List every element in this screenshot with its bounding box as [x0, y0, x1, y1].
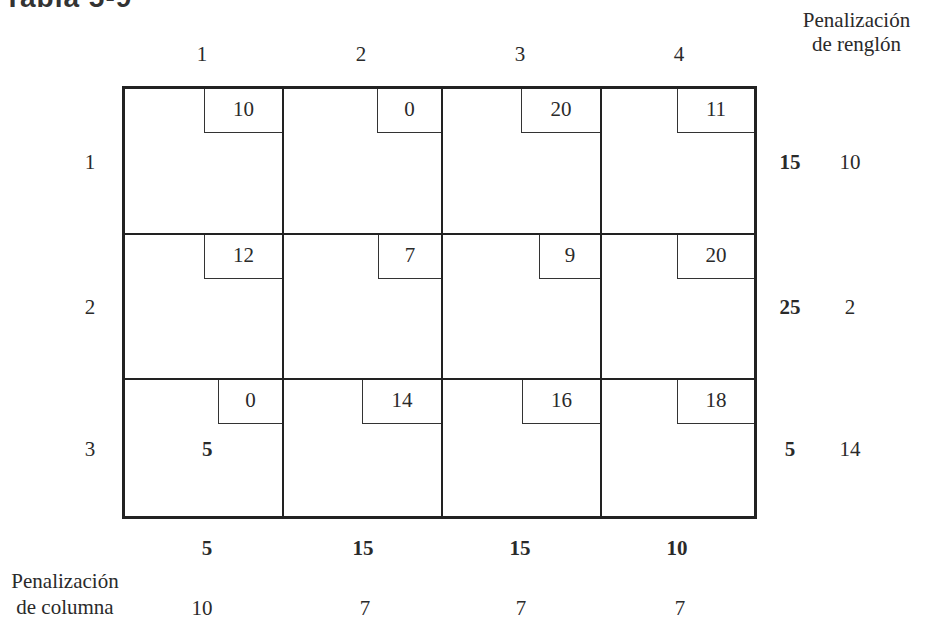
- cell-r3-c4: 18: [602, 380, 754, 516]
- cell-r3-c2: 14: [284, 380, 441, 516]
- supply-row-2: 25: [770, 295, 810, 320]
- demand-col-1: 5: [182, 536, 232, 561]
- allocation-value: 5: [202, 437, 213, 462]
- column-penalty-header: Penalización de columna: [0, 568, 130, 620]
- row-penalty-1: 10: [830, 150, 870, 175]
- transportation-table: 10 0 20 11 12 7 9 20 0 5 14 16 18: [122, 86, 757, 519]
- cost-box: 7: [378, 235, 441, 279]
- column-penalty-3: 7: [496, 596, 546, 621]
- row-penalty-header-line1: Penalización: [770, 8, 943, 32]
- demand-col-4: 10: [652, 536, 702, 561]
- column-penalty-4: 7: [655, 596, 705, 621]
- column-label-2: 2: [341, 42, 381, 67]
- column-label-1: 1: [182, 42, 222, 67]
- cell-r1-c2: 0: [284, 89, 441, 233]
- cell-r2-c3: 9: [443, 235, 600, 378]
- supply-row-1: 15: [770, 150, 810, 175]
- column-penalty-1: 10: [177, 596, 227, 621]
- row-label-3: 3: [72, 437, 108, 462]
- table-title: Tabla 5-9: [4, 0, 132, 14]
- row-label-1: 1: [72, 150, 108, 175]
- cell-r1-c1: 10: [125, 89, 282, 233]
- cell-r2-c1: 12: [125, 235, 282, 378]
- row-label-2: 2: [72, 295, 108, 320]
- row-penalty-header: Penalización de renglón: [770, 8, 943, 56]
- cell-r2-c4: 20: [602, 235, 754, 378]
- cost-box: 14: [362, 380, 441, 424]
- supply-row-3: 5: [770, 437, 810, 462]
- demand-col-3: 15: [495, 536, 545, 561]
- cost-box: 9: [539, 235, 600, 279]
- cost-box: 12: [204, 235, 282, 279]
- cost-box: 11: [677, 89, 754, 133]
- row-penalty-3: 14: [830, 437, 870, 462]
- demand-col-2: 15: [338, 536, 388, 561]
- column-penalty-2: 7: [340, 596, 390, 621]
- column-label-4: 4: [659, 42, 699, 67]
- column-label-3: 3: [500, 42, 540, 67]
- cost-box: 20: [521, 89, 600, 133]
- cell-r2-c2: 7: [284, 235, 441, 378]
- cost-box: 18: [677, 380, 754, 424]
- cell-r1-c3: 20: [443, 89, 600, 233]
- row-penalty-header-line2: de renglón: [770, 32, 943, 56]
- cost-box: 20: [677, 235, 754, 279]
- cost-box: 0: [218, 380, 282, 424]
- cell-r3-c1: 0 5: [125, 380, 282, 516]
- cell-r3-c3: 16: [443, 380, 600, 516]
- cell-r1-c4: 11: [602, 89, 754, 233]
- cost-box: 16: [522, 380, 600, 424]
- cost-box: 0: [377, 89, 441, 133]
- column-penalty-header-line2: de columna: [0, 594, 130, 620]
- row-penalty-2: 2: [830, 295, 870, 320]
- column-penalty-header-line1: Penalización: [0, 568, 130, 594]
- cost-box: 10: [204, 89, 282, 133]
